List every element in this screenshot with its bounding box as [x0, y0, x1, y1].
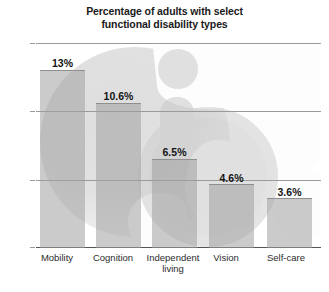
x-axis-label-line: living: [138, 263, 208, 274]
bar-mobility[interactable]: [40, 70, 85, 248]
bar-series: 13% 10.6% 6.5% 4.6% 3.6%: [36, 43, 321, 248]
bar-group-independent-living: 6.5%: [152, 44, 197, 248]
y-tick-15: [30, 43, 35, 44]
bar-cognition[interactable]: [96, 103, 141, 248]
y-tick-0: [30, 247, 35, 248]
bar-independent-living[interactable]: [152, 159, 197, 248]
x-axis-label-mobility: Mobility: [29, 252, 85, 263]
chart-title: Percentage of adults with select functio…: [0, 5, 329, 30]
bar-group-self-care: 3.6%: [267, 44, 312, 248]
x-axis-label-cognition: Cognition: [85, 252, 141, 263]
x-axis-label-line: Self-care: [255, 252, 317, 263]
bar-value-self-care: 3.6%: [278, 187, 302, 198]
x-axis-label-line: Mobility: [29, 252, 85, 263]
x-axis-label-vision: Vision: [198, 252, 254, 263]
y-tick-10: [30, 111, 35, 112]
plot-area: 13% 10.6% 6.5% 4.6% 3.6%: [36, 43, 321, 248]
bar-group-cognition: 10.6%: [96, 44, 141, 248]
bar-value-cognition: 10.6%: [104, 91, 134, 102]
bar-vision[interactable]: [209, 184, 254, 248]
x-axis-label-self-care: Self-care: [255, 252, 317, 263]
bar-value-vision: 4.6%: [220, 173, 244, 184]
figure-container: Percentage of adults with select functio…: [0, 0, 329, 292]
bar-value-mobility: 13%: [52, 58, 73, 69]
x-axis-label-line: Cognition: [85, 252, 141, 263]
bar-group-mobility: 13%: [40, 44, 85, 248]
bar-self-care[interactable]: [267, 198, 312, 248]
x-axis-label-line: Vision: [198, 252, 254, 263]
bar-value-independent-living: 6.5%: [163, 147, 187, 158]
chart-title-line-2: functional disability types: [0, 18, 329, 31]
y-tick-5: [30, 180, 35, 181]
bar-group-vision: 4.6%: [209, 44, 254, 248]
chart-title-line-1: Percentage of adults with select: [0, 5, 329, 18]
figure-caption: [8, 283, 324, 292]
